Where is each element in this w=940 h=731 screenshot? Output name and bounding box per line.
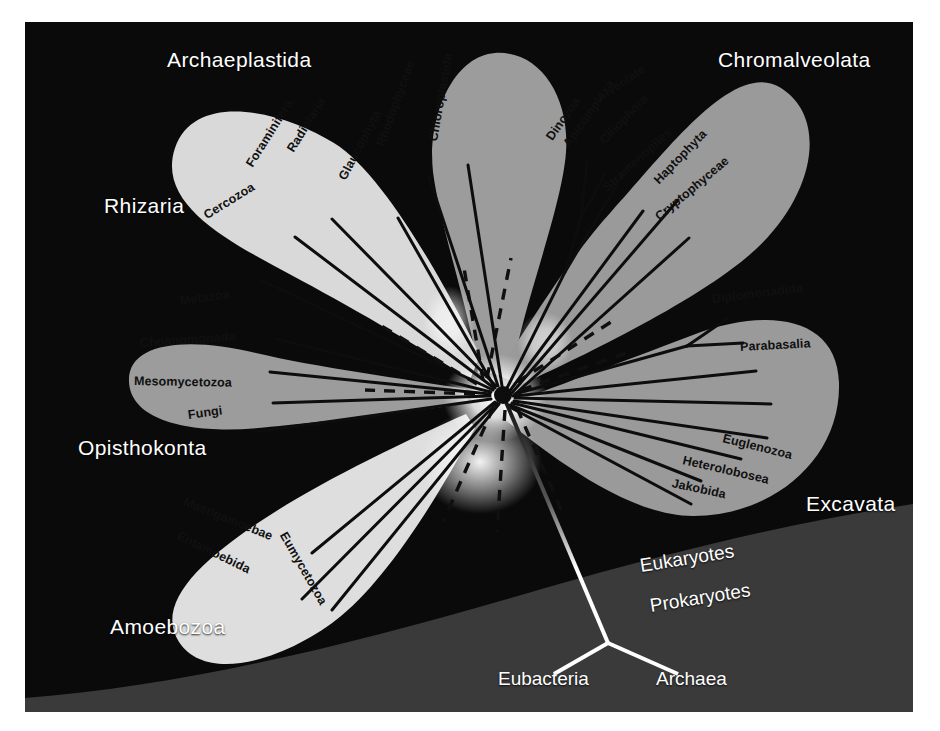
tree-of-life-plate: Archaeplastida Chromalveolata Rhizaria O…	[25, 22, 913, 712]
figure-root: Archaeplastida Chromalveolata Rhizaria O…	[0, 0, 940, 731]
prokaryote-band	[25, 504, 913, 712]
phylogenetic-tree-canvas	[25, 22, 913, 712]
tree-hub	[494, 386, 512, 404]
